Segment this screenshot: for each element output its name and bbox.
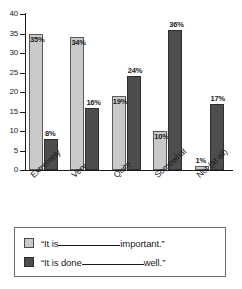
legend-label-important: “It isimportant.”	[41, 238, 165, 249]
y-tick-label: 35	[0, 30, 18, 38]
chart-legend: “It isimportant.” “It is donewell.”	[14, 227, 226, 277]
bar	[112, 96, 126, 170]
bar-value-label: 34%	[71, 39, 85, 47]
bar-group: 34%16%	[70, 14, 99, 170]
y-tick-label: 10	[0, 127, 18, 135]
bar	[127, 76, 141, 170]
legend-swatch-light	[24, 238, 34, 248]
bar-value-label: 10%	[154, 133, 168, 141]
y-tick-label: 30	[0, 49, 18, 57]
legend-prefix: “It is done	[41, 257, 82, 268]
bar-value-label: 36%	[169, 21, 183, 29]
legend-blank-rule	[82, 264, 144, 265]
bar	[70, 37, 84, 170]
y-tick-label: 25	[0, 69, 18, 77]
y-tick-label: 20	[0, 88, 18, 96]
bar-value-label: 17%	[211, 95, 225, 103]
bar-chart: 0510152025303540 35%8%34%16%19%24%10%36%…	[0, 0, 242, 218]
y-tick-label: 40	[0, 10, 18, 18]
bar-value-label: 16%	[86, 99, 100, 107]
bar-group: 19%24%	[112, 14, 141, 170]
bar-group: 35%8%	[29, 14, 58, 170]
bar-value-label: 19%	[113, 98, 127, 106]
legend-suffix: well.”	[144, 257, 166, 268]
plot-area: 35%8%34%16%19%24%10%36%1%17%	[25, 14, 232, 170]
bar-group: 1%17%	[195, 14, 224, 170]
bar-value-label: 35%	[30, 36, 44, 44]
legend-item-done-well: “It is donewell.”	[24, 254, 165, 270]
y-tick-label: 5	[0, 147, 18, 155]
legend-item-important: “It isimportant.”	[24, 235, 165, 251]
bar-value-label: 24%	[128, 67, 142, 75]
legend-label-done-well: “It is donewell.”	[41, 257, 165, 268]
legend-blank-rule	[58, 245, 120, 246]
bar-value-label: 8%	[45, 130, 55, 138]
y-tick-label: 0	[0, 166, 18, 174]
bar-group: 10%36%	[153, 14, 182, 170]
legend-prefix: “It is	[41, 238, 58, 249]
legend-suffix: important.”	[120, 238, 164, 249]
y-tick	[20, 170, 25, 171]
bar	[29, 34, 43, 171]
bar	[85, 108, 99, 170]
legend-swatch-dark	[24, 257, 34, 267]
y-tick-label: 15	[0, 108, 18, 116]
